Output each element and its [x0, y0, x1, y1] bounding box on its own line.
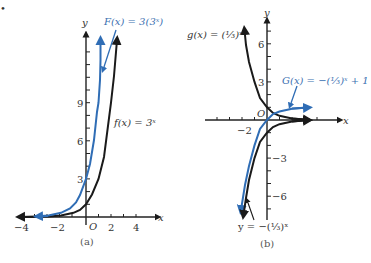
panel-b: −2 6 3 −3 −6 O x y g(x) = (⅓)ˣ G(x) = −(… — [187, 7, 369, 249]
y-tick-label: 6 — [77, 136, 83, 147]
figure: • — [0, 0, 371, 263]
g-label: g(x) = (⅓)ˣ — [187, 29, 243, 40]
curve-G-tail — [292, 108, 308, 109]
origin-label: O — [89, 221, 97, 232]
f-label: f(x) = 3ˣ — [113, 117, 156, 128]
origin-label: O — [257, 108, 265, 119]
curve-f — [20, 40, 117, 217]
G-label-pointer — [290, 86, 297, 106]
y-tick-label: −3 — [272, 153, 287, 164]
y-label: y = −(⅓)ˣ — [237, 221, 289, 232]
y-tick-label: −6 — [272, 191, 287, 202]
y-tick-label: 3 — [77, 174, 83, 185]
y-axis-label: y — [263, 7, 270, 18]
x-axis-label: x — [343, 115, 349, 126]
y-label-pointer — [247, 200, 254, 220]
y-axis-label: y — [81, 17, 88, 28]
x-tick-label: −4 — [14, 222, 29, 233]
G-label: G(x) = −(⅓)ˣ + 1 — [282, 75, 369, 86]
caption-a: (a) — [80, 236, 94, 247]
figure-marker: • — [0, 3, 6, 14]
y-tick-label: 3 — [258, 77, 264, 88]
x-tick-label: 2 — [108, 222, 114, 233]
x-tick-label: 4 — [133, 222, 139, 233]
y-tick-label: 6 — [258, 39, 264, 50]
x-tick-label: −2 — [237, 125, 252, 136]
y-tick-label: 9 — [77, 98, 83, 109]
caption-b: (b) — [260, 238, 274, 249]
x-tick-label: −2 — [50, 222, 65, 233]
curve-F — [34, 40, 101, 217]
F-label: F(x) = 3(3ˣ) — [103, 16, 163, 27]
curve-neg-g-tail — [292, 120, 308, 121]
x-axis-label: x — [158, 212, 164, 223]
panel-a: −4 −2 2 4 3 6 9 O x y F(x) = 3(3ˣ) f(x) … — [14, 16, 164, 247]
